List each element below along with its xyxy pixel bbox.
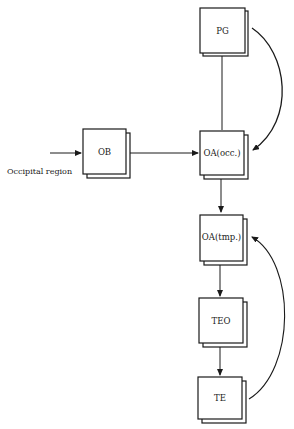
edge-te-to-oa-tmp-curve [249, 237, 285, 399]
node-te: TE [198, 377, 246, 423]
node-label-ob: OB [98, 147, 111, 157]
node-label-oa-occ: OA(occ.) [203, 148, 240, 158]
node-oa-tmp: OA(tmp.) [200, 215, 247, 265]
node-label-pg: PG [216, 26, 229, 36]
node-oa-occ: OA(occ.) [200, 131, 248, 179]
input-label-occipital-region: Occipital region [7, 167, 72, 176]
node-pg: PG [200, 8, 248, 56]
pathway-diagram: Occipital region PG OB OA(occ.) OA(tmp.)… [0, 0, 294, 429]
node-label-oa-tmp: OA(tmp.) [202, 232, 241, 242]
edges [50, 28, 285, 399]
node-label-teo: TEO [212, 316, 231, 326]
node-ob: OB [83, 129, 130, 178]
node-teo: TEO [199, 298, 247, 347]
node-label-te: TE [214, 393, 226, 403]
edge-pg-to-oa-occ-curve [252, 28, 282, 150]
